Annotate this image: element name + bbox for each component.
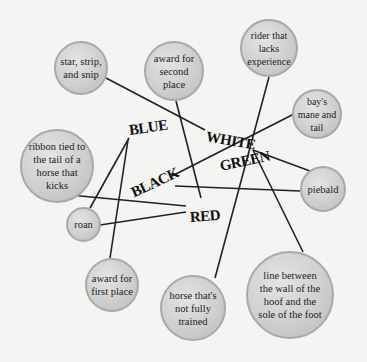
node-horse-not-trained: horse that's not fully trained bbox=[160, 275, 226, 341]
node-roan: roan bbox=[66, 207, 101, 242]
node-award-first-place: award for first place bbox=[85, 258, 139, 312]
line-award2-red bbox=[176, 101, 201, 198]
node-rider-lacks-experience: rider that lacks experience bbox=[240, 19, 298, 77]
node-award-second-place: award for second place bbox=[144, 41, 204, 101]
node-bays-mane-tail: bay's mane and tail bbox=[292, 89, 342, 139]
node-star-strip-snip: star, strip, and snip bbox=[54, 41, 108, 95]
line-piebald-black bbox=[175, 186, 300, 191]
line-roan-red bbox=[100, 212, 186, 225]
node-piebald: piebald bbox=[300, 166, 346, 212]
line-rider-greenhorse bbox=[215, 77, 269, 278]
node-hoof-line: line between the wall of the hoof and th… bbox=[246, 251, 334, 339]
line-ribbon-red bbox=[70, 195, 186, 206]
node-ribbon-kicks: ribbon tied to the tail of a horse that … bbox=[20, 129, 94, 203]
label-red: RED bbox=[189, 207, 220, 226]
color-terms-diagram: star, strip, and snip award for second p… bbox=[0, 0, 367, 362]
